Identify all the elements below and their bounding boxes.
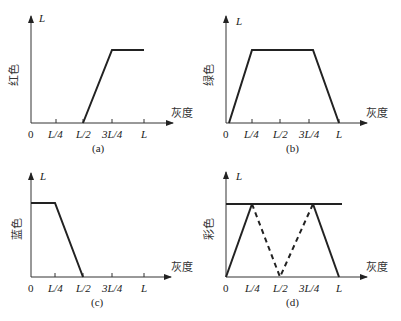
- color-curve-dashed-dip: [252, 204, 313, 277]
- green-curve: [229, 50, 339, 123]
- color-curve-rise: [226, 204, 252, 277]
- svg-text:L/4: L/4: [47, 128, 63, 140]
- y-axis-label: 绿色: [202, 64, 216, 86]
- caption: (b): [286, 142, 299, 155]
- color-curve-fall: [313, 204, 339, 277]
- panel-a: L 0 L/4 L/2 3L/4 L 灰度 红色 (a): [7, 12, 193, 155]
- svg-text:0: 0: [28, 128, 34, 140]
- svg-text:L: L: [140, 282, 147, 294]
- y-axis-label: 彩色: [202, 218, 216, 240]
- svg-text:3L/4: 3L/4: [298, 282, 320, 294]
- x-axis-label: 灰度: [171, 106, 193, 120]
- svg-text:L: L: [140, 128, 147, 140]
- y-max-label: L: [235, 170, 242, 182]
- x-axis-label: 灰度: [171, 260, 193, 274]
- color-mapping-diagram: L 0 L/4 L/2 3L/4 L 灰度 红色 (a) L 0 L/4 L/2…: [0, 0, 401, 321]
- svg-text:L/2: L/2: [272, 128, 288, 140]
- svg-text:3L/4: 3L/4: [101, 282, 123, 294]
- x-axis-label: 灰度: [366, 106, 388, 120]
- y-max-label: L: [235, 15, 242, 27]
- svg-text:L/4: L/4: [47, 282, 63, 294]
- svg-text:0: 0: [223, 282, 229, 294]
- caption: (c): [91, 296, 104, 309]
- red-curve: [83, 50, 144, 123]
- svg-text:0: 0: [223, 128, 229, 140]
- y-max-label: L: [39, 170, 46, 182]
- svg-text:0: 0: [28, 282, 34, 294]
- panel-c: L 0 L/4 L/2 3L/4 L 灰度 蓝色 (c): [10, 170, 193, 309]
- svg-text:3L/4: 3L/4: [298, 128, 320, 140]
- svg-text:L/4: L/4: [243, 128, 259, 140]
- svg-text:L: L: [335, 282, 342, 294]
- svg-text:L/2: L/2: [75, 128, 91, 140]
- panel-d: L 0 L/4 L/2 3L/4 L 灰度 彩色 (d): [202, 170, 388, 309]
- panel-b: L 0 L/4 L/2 3L/4 L 灰度 绿色 (b): [202, 15, 388, 155]
- svg-text:L: L: [335, 128, 342, 140]
- svg-text:L/2: L/2: [75, 282, 91, 294]
- x-axis-label: 灰度: [366, 260, 388, 274]
- svg-text:L/4: L/4: [244, 282, 260, 294]
- y-axis-label: 红色: [7, 64, 21, 86]
- blue-curve: [31, 203, 83, 277]
- svg-text:3L/4: 3L/4: [101, 128, 123, 140]
- caption: (d): [286, 296, 299, 309]
- svg-text:L/2: L/2: [272, 282, 288, 294]
- y-axis-label: 蓝色: [10, 218, 24, 240]
- y-max-label: L: [38, 12, 45, 24]
- caption: (a): [92, 142, 105, 155]
